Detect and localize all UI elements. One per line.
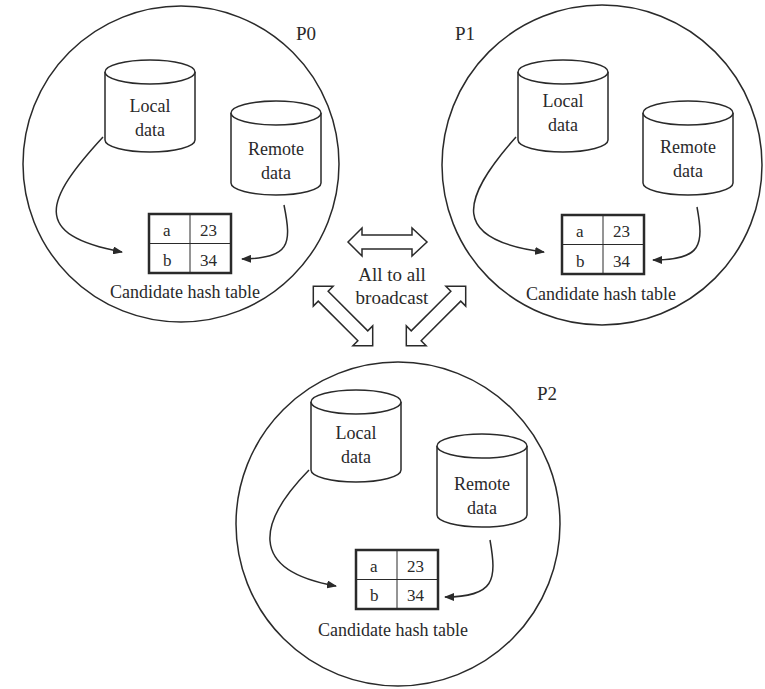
broadcast-label: All to all [358,264,426,285]
broadcast-label: broadcast [356,287,430,308]
table-value: 34 [407,586,425,605]
table-value: 34 [200,251,218,270]
candidate-hash-table: a 23 b 34 [149,214,231,273]
table-key: a [163,221,171,240]
local-data-label: Local [130,96,171,116]
local-to-table-arrow [474,137,544,252]
local-data-cylinder: Local data [105,60,195,152]
double-arrow-icon [348,228,427,256]
remote-data-label: data [467,498,497,518]
local-data-label: Local [543,91,584,111]
local-data-label: Local [336,423,377,443]
local-data-cylinder: Local data [311,390,401,482]
processor-label: P1 [455,23,475,44]
table-caption: Candidate hash table [526,284,676,304]
processor-p2: P2 Local data Remote data a 23 b 34 Cand… [236,362,560,686]
local-data-cylinder: Local data [518,60,608,152]
processor-p0: P0 Local data Remote data a 23 b 34 Can [23,6,339,322]
remote-data-label: Remote [454,474,510,494]
table-caption: Candidate hash table [110,282,260,302]
remote-data-label: Remote [660,137,716,157]
remote-to-table-arrow [653,207,700,260]
processor-label: P2 [537,383,557,404]
table-value: 23 [200,221,217,240]
candidate-hash-table: a 23 b 34 [562,215,644,274]
remote-data-cylinder: Remote data [437,434,527,527]
remote-data-label: Remote [248,139,304,159]
broadcast-arrows: All to all broadcast [303,228,475,356]
local-data-label: data [341,447,371,467]
table-value: 34 [613,252,631,271]
processor-label: P0 [296,23,316,44]
remote-data-cylinder: Remote data [643,101,733,195]
table-value: 23 [613,222,630,241]
table-key: b [576,252,585,271]
table-value: 23 [407,557,424,576]
local-data-label: data [548,115,578,135]
remote-data-cylinder: Remote data [231,101,321,195]
diagram-canvas: P0 Local data Remote data a 23 b 34 Can [0,0,765,689]
remote-to-table-arrow [445,540,493,597]
table-caption: Candidate hash table [318,620,468,640]
remote-data-label: data [261,163,291,183]
processor-p1: P1 Local data Remote data a 23 b 34 Cand… [442,5,762,325]
table-key: a [370,557,378,576]
local-data-label: data [135,120,165,140]
local-to-table-arrow [270,470,336,586]
candidate-hash-table: a 23 b 34 [356,550,438,609]
table-key: b [370,586,379,605]
remote-to-table-arrow [242,205,288,259]
remote-data-label: data [673,161,703,181]
table-key: b [163,251,172,270]
table-key: a [576,222,584,241]
local-to-table-arrow [56,137,122,252]
